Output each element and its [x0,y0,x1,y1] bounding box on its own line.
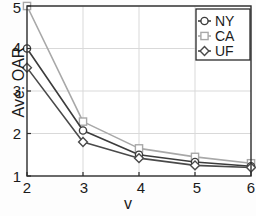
legend-items: NYCAUF [198,13,235,59]
chart-figure: NYCAUF 5 4 3 2 1 2 3 4 5 6 Ave. OAR v [0,0,256,216]
x-axis-title: v [0,196,256,212]
legend-label-ca: CA [215,28,235,44]
legend-marker-circle-icon [201,17,208,24]
y-tick-label-2: 2 [5,126,21,141]
x-tick-label-2: 2 [17,180,37,195]
x-tick-label-6: 6 [241,180,256,195]
legend-label-uf: UF [215,43,234,59]
chart-legend[interactable]: NYCAUF [196,9,250,60]
x-tick-label-4: 4 [131,180,151,195]
data-point-ca-3 [79,118,86,125]
legend-marker-square-icon [201,32,208,39]
y-axis-title: Ave. OAR [11,37,27,127]
data-point-ny-3 [79,127,86,134]
x-tick-label-5: 5 [187,180,207,195]
y-tick-label-5: 5 [5,0,21,15]
line-chart-canvas: NYCAUF [0,0,256,216]
x-tick-label-3: 3 [74,180,94,195]
legend-label-ny: NY [215,13,235,29]
